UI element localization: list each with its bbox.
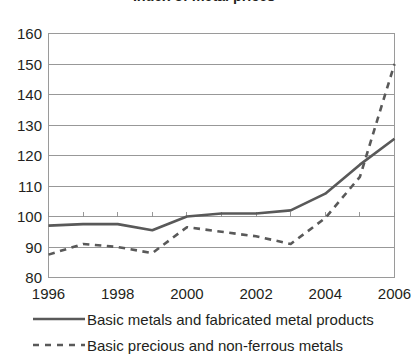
legend-key-dashed-line-icon: [31, 338, 87, 352]
legend-item-dashed: Basic precious and non-ferrous metals: [0, 332, 408, 358]
chart-legend: Basic metals and fabricated metal produc…: [0, 306, 408, 358]
legend-key-solid-line-icon: [31, 312, 87, 326]
x-axis-tick-label: 2000: [162, 286, 212, 301]
legend-item-solid: Basic metals and fabricated metal produc…: [0, 306, 408, 332]
legend-label-dashed: Basic precious and non-ferrous metals: [87, 338, 343, 353]
x-axis-tick-label: 2002: [231, 286, 281, 301]
x-axis-tick-label: 2006: [370, 286, 416, 301]
legend-label-solid: Basic metals and fabricated metal produc…: [87, 312, 374, 327]
plot-area: 8090100110120130140150160 19961998200020…: [0, 0, 408, 300]
x-axis-tick-label: 1996: [24, 286, 74, 301]
x-axis-tick-label: 1998: [93, 286, 143, 301]
x-axis-tick-label: 2004: [300, 286, 350, 301]
x-axis-labels: 199619982000200220042006: [0, 0, 408, 300]
